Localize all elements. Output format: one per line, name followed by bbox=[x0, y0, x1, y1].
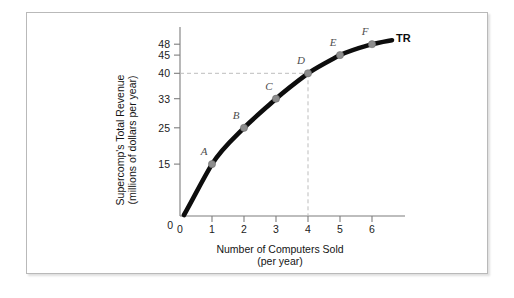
y-tick-label-45: 45 bbox=[158, 49, 170, 61]
point-marker-B[interactable] bbox=[240, 124, 247, 131]
point-label-D: D bbox=[296, 54, 305, 66]
y-tick-label-15: 15 bbox=[158, 158, 170, 170]
x-tick-label-1: 1 bbox=[209, 223, 215, 235]
y-axis-title-line1: Supercomp's Total Revenue bbox=[114, 74, 126, 205]
figure-frame: Supercomp's Total Revenue (millions of d… bbox=[26, 12, 488, 274]
chart-plot-area: Supercomp's Total Revenue (millions of d… bbox=[27, 13, 489, 275]
y-tick-label-33: 33 bbox=[158, 93, 170, 105]
data-point-B[interactable]: B bbox=[233, 109, 248, 132]
data-point-E[interactable]: E bbox=[329, 36, 344, 59]
x-axis-title-line2: (per year) bbox=[257, 255, 303, 267]
data-point-F[interactable]: F bbox=[361, 25, 376, 48]
total-revenue-chart: Supercomp's Total Revenue (millions of d… bbox=[27, 13, 489, 275]
x-tick-label-2: 2 bbox=[241, 223, 247, 235]
point-label-A: A bbox=[200, 145, 208, 157]
x-tick-label-3: 3 bbox=[273, 223, 279, 235]
point-marker-A[interactable] bbox=[208, 161, 215, 168]
y-axis-ticks: 48 45 40 33 25 15 0 bbox=[158, 38, 180, 231]
point-label-C: C bbox=[265, 80, 273, 92]
reference-guides bbox=[180, 73, 308, 216]
data-point-A[interactable]: A bbox=[200, 145, 216, 168]
page-root: Supercomp's Total Revenue (millions of d… bbox=[0, 0, 514, 298]
y-tick-label-40: 40 bbox=[158, 67, 170, 79]
curve-label-tr: TR bbox=[396, 32, 411, 44]
point-marker-C[interactable] bbox=[272, 95, 279, 102]
x-tick-label-6: 6 bbox=[369, 223, 375, 235]
x-axis-title-group: Number of Computers Sold (per year) bbox=[216, 243, 343, 267]
point-marker-F[interactable] bbox=[368, 41, 375, 48]
x-axis-title-line1: Number of Computers Sold bbox=[216, 243, 343, 255]
point-label-F: F bbox=[361, 25, 369, 37]
x-tick-label-5: 5 bbox=[337, 223, 343, 235]
point-marker-E[interactable] bbox=[336, 52, 343, 59]
point-label-E: E bbox=[329, 36, 337, 48]
x-axis-ticks: 1 2 3 4 5 6 0 bbox=[177, 216, 375, 235]
y-tick-label-0: 0 bbox=[167, 219, 173, 231]
x-tick-label-0: 0 bbox=[177, 223, 183, 235]
y-axis-title-group: Supercomp's Total Revenue (millions of d… bbox=[114, 74, 138, 205]
total-revenue-curve bbox=[184, 44, 372, 215]
y-axis-title-line2: (millions of dollars per year) bbox=[126, 76, 138, 205]
data-point-D[interactable]: D bbox=[296, 54, 312, 77]
x-tick-label-4: 4 bbox=[305, 223, 311, 235]
y-tick-label-25: 25 bbox=[158, 122, 170, 134]
point-marker-D[interactable] bbox=[304, 70, 311, 77]
data-point-C[interactable]: C bbox=[265, 80, 279, 103]
point-label-B: B bbox=[233, 109, 240, 121]
